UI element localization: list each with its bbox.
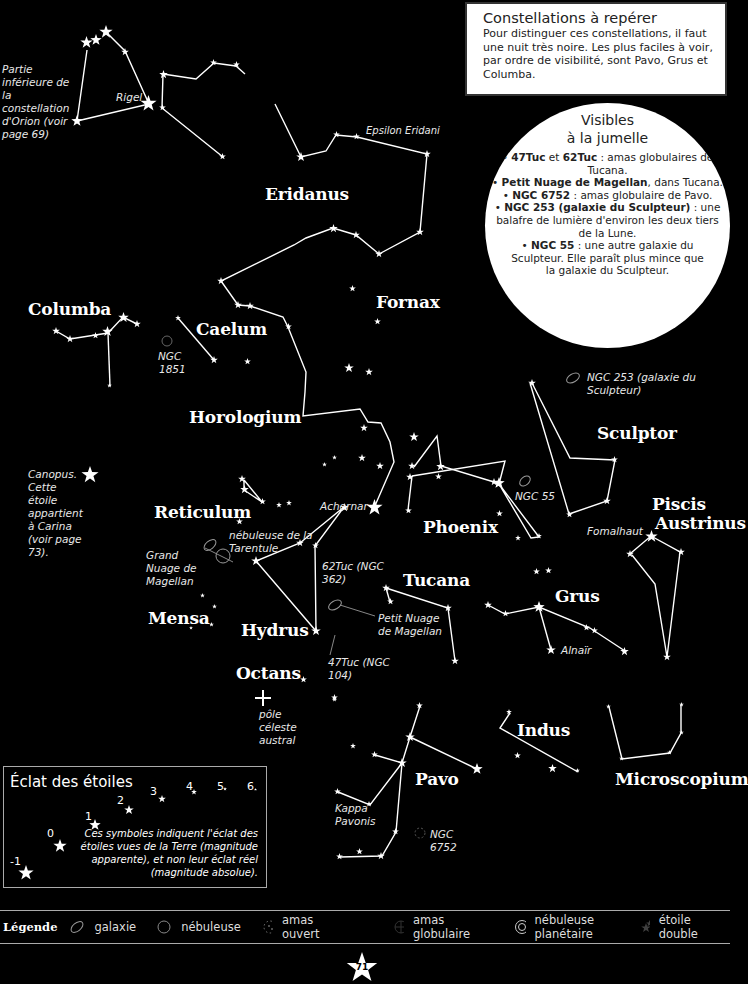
binoculars-list: • 47Tuc et 62Tuc : amas globulaires de T…: [485, 151, 730, 277]
label-octans: Octans: [236, 663, 301, 683]
open-cluster-icon: [261, 919, 273, 935]
label-caelum: Caelum: [196, 319, 267, 339]
label-phoenix: Phoenix: [423, 517, 498, 537]
legend-item-nebula: nébuleuse: [156, 919, 241, 935]
planetary-nebula-icon: [514, 919, 525, 935]
legend-item-open-cluster: amas ouvert: [261, 913, 332, 941]
note-fomalhaut: Fomalhaut: [587, 525, 643, 538]
legend-title: Légende: [3, 920, 57, 934]
label-sculptor: Sculptor: [597, 423, 677, 443]
note-62tuc: 62Tuc (NGC 362): [322, 560, 392, 586]
label-pavo: Pavo: [415, 769, 459, 789]
label-indus: Indus: [517, 720, 570, 740]
note-ngc6752: NGC 6752: [430, 828, 466, 854]
legend-item-planetary-nebula: nébuleuse planétaire: [514, 913, 618, 941]
info-box-title: Constellations à repérer: [483, 9, 717, 27]
note-ngc55: NGC 55: [515, 490, 555, 503]
note-47tuc: 47Tuc (NGC 104): [328, 656, 398, 682]
note-rigel: Rigel: [116, 91, 142, 104]
label-microscopium: Microscopium: [615, 769, 748, 789]
label-eridanus: Eridanus: [265, 184, 349, 204]
label-austrinus: Austrinus: [655, 513, 746, 533]
legend-bar: Légende galaxie nébuleuse amas ouvert am…: [0, 910, 730, 944]
note-epsilon-eridani: Epsilon Eridani: [366, 124, 440, 137]
binoculars-item: • NGC 253 (galaxie du Sculpteur) : une b…: [491, 201, 724, 239]
note-ngc1851-1: NGC: [158, 350, 181, 363]
binoculars-item: • NGC 6752 : amas globulaire de Pavo.: [491, 189, 724, 202]
nebula-icon: [156, 919, 172, 935]
legend-item-galaxy: galaxie: [69, 920, 136, 934]
south-pole-marker: [255, 690, 271, 706]
note-achernar: Achernar: [320, 500, 368, 513]
legend-item-globular-cluster: amas globulaire: [392, 913, 477, 941]
galaxy-icon: [69, 920, 85, 934]
label-tucana: Tucana: [403, 570, 470, 590]
label-hydrus: Hydrus: [241, 620, 309, 640]
note-south-pole: pôle céleste austral: [259, 708, 309, 747]
globular-cluster-icon: [392, 919, 404, 935]
note-canopus: Canopus. Cette étoile appartient à Carin…: [28, 468, 88, 559]
label-horologium: Horologium: [189, 407, 301, 427]
note-ngc253: NGC 253 (galaxie du Sculpteur): [587, 371, 697, 397]
note-kappa-pavonis: Kappa Pavonis: [335, 802, 385, 828]
label-piscis: Piscis: [652, 494, 706, 514]
binoculars-item: • Petit Nuage de Magellan, dans Tucana.: [491, 176, 724, 189]
note-ngc1851-2: 1851: [159, 363, 186, 376]
binoculars-item: • 47Tuc et 62Tuc : amas globulaires de T…: [491, 151, 724, 176]
note-petit-nuage: Petit Nuage de Magellan: [378, 612, 448, 638]
page-number: 71: [345, 962, 379, 972]
info-box-body: Pour distinguer ces constellations, il f…: [483, 27, 717, 81]
note-tarentule: nébuleuse de la Tarentule: [229, 529, 344, 555]
binoculars-item: • NGC 55 : une autre galaxie du Sculpteu…: [491, 239, 724, 277]
note-grand-nuage: Grand Nuage de Magellan: [146, 549, 206, 588]
label-reticulum: Reticulum: [154, 502, 251, 522]
note-orion: Partie inférieure de la constellation d'…: [2, 63, 80, 141]
binoculars-panel: Visibles à la jumelle • 47Tuc et 62Tuc :…: [485, 103, 730, 348]
double-star-icon: [639, 919, 650, 935]
note-alnair: Alnaïr: [561, 644, 591, 657]
label-columba: Columba: [28, 299, 111, 319]
label-mensa: Mensa: [148, 608, 210, 628]
legend-item-double-star: étoile double: [639, 913, 710, 941]
magnitude-note: Ces symboles indiquent l'éclat des étoil…: [58, 827, 258, 879]
label-grus: Grus: [555, 586, 600, 606]
label-fornax: Fornax: [376, 292, 440, 312]
magnitude-legend: Éclat des étoiles -1 0 1 2 3 4 5 6 Ces s…: [3, 766, 267, 888]
info-box-constellations: Constellations à repérer Pour distinguer…: [465, 2, 727, 96]
